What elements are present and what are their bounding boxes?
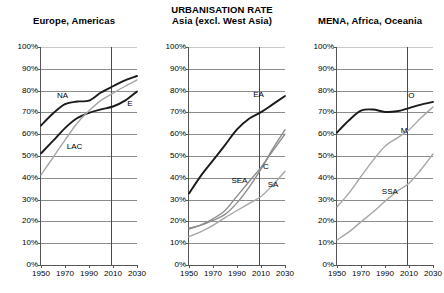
chart-panel-mena-africa-oceania: MENA, Africa, Oceania0%10%20%30%40%50%60… — [296, 0, 444, 293]
y-tick-label: 10% — [170, 239, 186, 247]
y-tick-label: 80% — [170, 87, 186, 95]
y-tick-label: 60% — [22, 130, 38, 138]
x-tick-label: 1970 — [204, 269, 222, 278]
x-tick-mark — [137, 265, 138, 268]
y-tick-label: 90% — [170, 65, 186, 73]
series-label-sa: SA — [268, 181, 279, 189]
series-label-m: M — [401, 127, 408, 135]
panel-title-mena-africa-oceania: MENA, Africa, Oceania — [296, 15, 444, 26]
plot-area-asia-excl-west-asia: 0%10%20%30%40%50%60%70%80%90%100%1950197… — [188, 47, 285, 266]
series-label-o: O — [408, 92, 414, 100]
y-tick-label: 20% — [170, 217, 186, 225]
x-tick-mark — [65, 265, 66, 268]
x-tick-label: 2010 — [400, 269, 418, 278]
series-label-ssa: SSA — [382, 188, 398, 196]
x-tick-label: 2030 — [276, 269, 294, 278]
y-tick-label: 70% — [170, 108, 186, 116]
series-lines-mena-africa-oceania — [337, 47, 433, 265]
y-tick-label: 20% — [318, 217, 334, 225]
x-tick-mark — [433, 265, 434, 268]
x-tick-mark — [213, 265, 214, 268]
x-tick-mark — [409, 265, 410, 268]
y-tick-label: 100% — [314, 43, 334, 51]
panel-title-asia-excl-west-asia: Asia (excl. West Asia) — [148, 15, 296, 26]
x-tick-label: 1970 — [352, 269, 370, 278]
x-tick-label: 2030 — [128, 269, 146, 278]
x-tick-mark — [89, 265, 90, 268]
y-tick-label: 90% — [22, 65, 38, 73]
series-line-o — [337, 102, 433, 133]
y-tick-label: 80% — [318, 87, 334, 95]
y-tick-label: 100% — [18, 43, 38, 51]
y-tick-label: 30% — [318, 196, 334, 204]
series-line-ssa — [337, 154, 433, 240]
x-tick-label: 1990 — [376, 269, 394, 278]
x-tick-label: 2030 — [424, 269, 442, 278]
x-tick-mark — [261, 265, 262, 268]
series-label-lac: LAC — [67, 143, 83, 151]
plot-area-mena-africa-oceania: 0%10%20%30%40%50%60%70%80%90%100%1950197… — [336, 47, 433, 266]
y-tick-label: 90% — [318, 65, 334, 73]
y-tick-label: 80% — [22, 87, 38, 95]
y-tick-label: 50% — [22, 152, 38, 160]
y-tick-label: 40% — [170, 174, 186, 182]
series-label-e: E — [127, 100, 132, 108]
y-tick-label: 50% — [318, 152, 334, 160]
x-tick-label: 1990 — [228, 269, 246, 278]
panel-title-europe-americas: Europe, Americas — [0, 15, 148, 26]
x-tick-mark — [41, 265, 42, 268]
chart-panel-europe-americas: Europe, Americas0%10%20%30%40%50%60%70%8… — [0, 0, 148, 293]
x-tick-mark — [285, 265, 286, 268]
y-tick-label: 30% — [22, 196, 38, 204]
series-label-sea: SEA — [231, 177, 247, 185]
y-tick-label: 70% — [22, 108, 38, 116]
x-tick-label: 2010 — [252, 269, 270, 278]
y-tick-label: 10% — [318, 239, 334, 247]
y-tick-label: 30% — [170, 196, 186, 204]
x-tick-label: 1970 — [56, 269, 74, 278]
x-tick-mark — [337, 265, 338, 268]
x-tick-mark — [385, 265, 386, 268]
series-line-lac — [41, 80, 137, 175]
x-tick-mark — [361, 265, 362, 268]
x-tick-label: 1990 — [80, 269, 98, 278]
y-tick-label: 0% — [322, 261, 334, 269]
figure-main-title: URBANISATION RATE — [148, 4, 296, 15]
y-tick-label: 0% — [26, 261, 38, 269]
y-tick-label: 40% — [318, 174, 334, 182]
chart-panel-asia-excl-west-asia: URBANISATION RATEAsia (excl. West Asia)0… — [148, 0, 296, 293]
plot-area-europe-americas: 0%10%20%30%40%50%60%70%80%90%100%1950197… — [40, 47, 137, 266]
y-tick-label: 0% — [174, 261, 186, 269]
series-label-ea: EA — [253, 91, 264, 99]
y-tick-label: 40% — [22, 174, 38, 182]
y-tick-label: 60% — [170, 130, 186, 138]
x-tick-mark — [113, 265, 114, 268]
x-tick-label: 1950 — [32, 269, 50, 278]
series-lines-europe-americas — [41, 47, 137, 265]
series-label-na: NA — [57, 92, 68, 100]
urbanisation-rate-figure: Europe, Americas0%10%20%30%40%50%60%70%8… — [0, 0, 444, 293]
y-tick-label: 70% — [318, 108, 334, 116]
x-tick-label: 1950 — [180, 269, 198, 278]
series-line-na — [41, 76, 137, 125]
x-tick-mark — [237, 265, 238, 268]
x-tick-mark — [189, 265, 190, 268]
y-tick-label: 20% — [22, 217, 38, 225]
x-tick-label: 2010 — [104, 269, 122, 278]
y-tick-label: 60% — [318, 130, 334, 138]
series-label-c: C — [263, 163, 269, 171]
y-tick-label: 10% — [22, 239, 38, 247]
y-tick-label: 100% — [166, 43, 186, 51]
x-tick-label: 1950 — [328, 269, 346, 278]
y-tick-label: 50% — [170, 152, 186, 160]
series-lines-asia-excl-west-asia — [189, 47, 285, 265]
